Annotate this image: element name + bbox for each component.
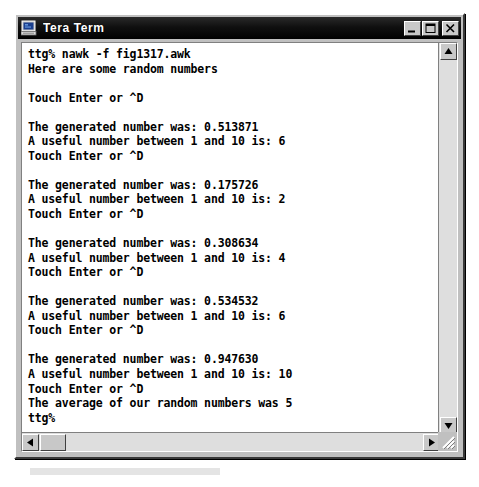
terminal-line: Touch Enter or ^D: [28, 149, 440, 164]
terminal-line: A useful number between 1 and 10 is: 2: [28, 192, 440, 207]
terminal-line: Touch Enter or ^D: [28, 207, 440, 222]
terminal-line: Touch Enter or ^D: [28, 323, 440, 338]
scan-artifact: [30, 468, 220, 475]
terminal-line: [28, 280, 440, 295]
terminal-line: The average of our random numbers was 5: [28, 396, 440, 411]
terminal-line: A useful number between 1 and 10 is: 6: [28, 309, 440, 324]
terminal-client-area: ttg% nawk -f fig1317.awkHere are some ra…: [21, 42, 458, 452]
terminal-line: ttg%: [28, 411, 440, 426]
terminal-line: [28, 222, 440, 237]
window-titlebar[interactable]: Tera Term: [18, 17, 461, 39]
terminal-line: [28, 163, 440, 178]
terminal-screen[interactable]: ttg% nawk -f fig1317.awkHere are some ra…: [22, 43, 440, 434]
horizontal-scrollbar[interactable]: [22, 432, 440, 451]
terminal-line: [28, 338, 440, 353]
scroll-up-arrow-icon[interactable]: [440, 43, 457, 60]
terminal-line: Touch Enter or ^D: [28, 382, 440, 397]
terminal-line: The generated number was: 0.308634: [28, 236, 440, 251]
terminal-computer-icon: [21, 20, 38, 36]
window-title: Tera Term: [43, 21, 403, 35]
terminal-line: [28, 105, 440, 120]
resize-grip[interactable]: [438, 432, 457, 451]
terminal-line: A useful number between 1 and 10 is: 4: [28, 251, 440, 266]
terminal-line: A useful number between 1 and 10 is: 10: [28, 367, 440, 382]
terminal-line: The generated number was: 0.175726: [28, 178, 440, 193]
terminal-output: ttg% nawk -f fig1317.awkHere are some ra…: [28, 47, 440, 425]
minimize-button[interactable]: [404, 21, 421, 36]
terminal-line: Touch Enter or ^D: [28, 91, 440, 106]
close-button[interactable]: [442, 21, 459, 36]
horizontal-scroll-thumb[interactable]: [40, 434, 66, 451]
maximize-button[interactable]: [422, 21, 439, 36]
terminal-line: The generated number was: 0.513871: [28, 120, 440, 135]
terminal-line: A useful number between 1 and 10 is: 6: [28, 134, 440, 149]
terminal-line: Touch Enter or ^D: [28, 265, 440, 280]
terminal-line: [28, 76, 440, 91]
vertical-scrollbar[interactable]: [438, 43, 457, 434]
terminal-line: Here are some random numbers: [28, 62, 440, 77]
terminal-line: The generated number was: 0.947630: [28, 352, 440, 367]
terminal-line: ttg% nawk -f fig1317.awk: [28, 47, 440, 62]
terminal-line: The generated number was: 0.534532: [28, 294, 440, 309]
tera-term-window: Tera Term ttg% nawk -f fig1317.awkHere a…: [14, 13, 465, 459]
scroll-left-arrow-icon[interactable]: [22, 434, 39, 451]
